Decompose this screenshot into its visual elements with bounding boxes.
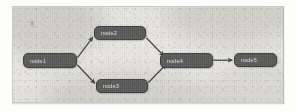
scanned-page: node1 node2 node3 node4 node5 xyxy=(0,0,296,112)
edge-node1-node3 xyxy=(78,65,95,83)
edge-node2-node4 xyxy=(147,38,164,56)
scan-edge-shadow-bottom xyxy=(12,103,285,105)
diagram-node-node1[interactable]: node1 xyxy=(23,53,77,68)
diagram-node-node5[interactable]: node5 xyxy=(234,53,277,67)
node-label: node4 xyxy=(167,58,183,64)
edge-node1-node2 xyxy=(78,38,93,58)
node-label: node2 xyxy=(101,30,117,36)
node-label: node3 xyxy=(103,83,119,89)
node-label: node1 xyxy=(30,58,46,64)
node-label: node5 xyxy=(241,57,257,63)
diagram-node-node2[interactable]: node2 xyxy=(94,26,146,40)
diagram-node-node3[interactable]: node3 xyxy=(96,79,148,93)
diagram-figure-frame: node1 node2 node3 node4 node5 xyxy=(12,6,284,103)
diagram-node-node4[interactable]: node4 xyxy=(160,53,213,68)
scan-edge-shadow-right xyxy=(283,6,285,104)
